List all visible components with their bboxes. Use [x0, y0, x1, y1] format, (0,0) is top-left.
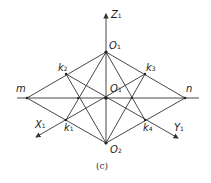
point-label-obottom: O2 — [110, 145, 122, 155]
point-label-otop: O1 — [109, 41, 121, 51]
figure-caption: (c) — [96, 162, 108, 171]
y-axis-label: Y1 — [174, 123, 184, 133]
point-label-n: n — [186, 84, 192, 94]
point-label-k3: k3 — [146, 63, 156, 73]
diagram-lines — [0, 0, 211, 183]
point-label-k4: k4 — [143, 123, 153, 133]
y-axis — [66, 74, 178, 138]
point-label-k1: k1 — [64, 123, 74, 133]
point-label-ocenter: O1 — [110, 84, 122, 94]
line-otop-k1 — [66, 52, 106, 120]
axonometric-diagram: Z1 O1 O1 O2 m n k2 k3 k1 k4 X1 Y1 (c) — [0, 0, 211, 183]
point-label-k2: k2 — [58, 63, 68, 73]
z-axis-label: Z1 — [111, 10, 122, 20]
point-label-m: m — [16, 84, 26, 94]
x-axis-label: X1 — [35, 120, 46, 130]
